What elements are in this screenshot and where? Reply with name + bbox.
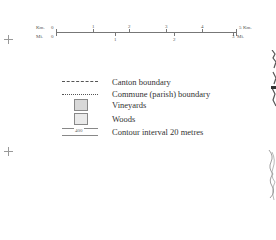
legend-item-canton: Canton boundary xyxy=(60,76,260,88)
km-tick-3 xyxy=(166,29,167,33)
mi-tick-1 xyxy=(115,32,116,36)
legend-item-woods: Woods xyxy=(60,113,260,125)
legend-item-contour: 400 Contour interval 20 metres xyxy=(60,126,260,138)
mi-end-label: Mi. xyxy=(237,34,244,39)
km-tick-4 xyxy=(202,29,203,33)
tick-0 xyxy=(56,29,57,36)
mi-tick-label: 2 xyxy=(173,37,176,42)
km-tick-label: 3 xyxy=(165,24,168,29)
woods-swatch-icon xyxy=(60,113,100,125)
map-edge-artwork-icon xyxy=(266,50,276,110)
registration-mark-icon xyxy=(4,35,13,44)
vineyard-swatch-icon xyxy=(60,99,100,111)
legend-label: Contour interval 20 metres xyxy=(112,127,203,137)
km-tick-2 xyxy=(129,29,130,33)
legend-label: Woods xyxy=(112,114,135,124)
km-end-label: Km. xyxy=(243,25,252,30)
mi-label: Mi. xyxy=(36,34,43,39)
km-tick-1 xyxy=(93,29,94,33)
legend-label: Vineyards xyxy=(112,100,146,110)
mi-tick-2 xyxy=(174,32,175,36)
km-tick-label: 2 xyxy=(128,24,131,29)
km-tick-label: 5 xyxy=(239,25,242,30)
mi-tick-label: 0 xyxy=(51,34,54,39)
km-tick-label: 0 xyxy=(51,25,54,30)
legend-item-vineyards: Vineyards xyxy=(60,99,260,111)
registration-mark-icon xyxy=(4,147,13,156)
km-tick-label: 1 xyxy=(92,24,95,29)
legend-label: Commune (parish) boundary xyxy=(112,89,210,99)
legend-label: Canton boundary xyxy=(112,77,171,87)
km-tick-label: 4 xyxy=(201,24,204,29)
km-label: Km. xyxy=(36,25,45,30)
contour-line-icon: 400 xyxy=(60,126,100,138)
scale-line xyxy=(56,32,236,33)
dashed-line-icon xyxy=(60,76,100,88)
mi-tick-label: 1 xyxy=(114,37,117,42)
mi-tick-label: 3 xyxy=(232,34,235,39)
contour-value: 400 xyxy=(74,128,84,133)
map-edge-artwork-icon xyxy=(266,150,276,202)
